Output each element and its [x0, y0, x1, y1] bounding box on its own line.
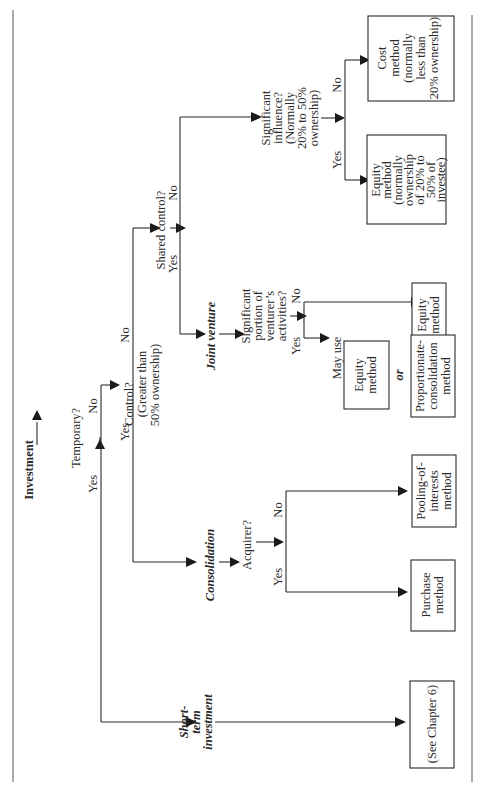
box-prop-line3: method	[439, 357, 453, 395]
edge-temporary-yes: Yes	[86, 475, 100, 493]
box-see-chapter: (See Chapter 6)	[425, 685, 439, 763]
node-portion-line4: activities?	[275, 290, 289, 341]
edge-shared-no: No	[166, 185, 180, 200]
edge-portion-yes: Yes	[289, 337, 303, 355]
edge-control-yes: Yes	[118, 423, 132, 441]
investment-accounting-flowchart: Investment Temporary? Yes No Control? (G…	[0, 0, 486, 788]
box-cost-line2: method	[388, 39, 402, 77]
box-equity-inf-line7: investee)	[434, 157, 448, 202]
box-prop-line2: consolidation	[426, 342, 440, 410]
edge-control-no: No	[118, 327, 132, 342]
node-consolidation: Consolidation	[203, 529, 217, 601]
node-short-term-line3: investment	[201, 694, 215, 750]
box-purchase-line2: method	[432, 576, 446, 614]
node-joint-venture: Joint venture	[204, 301, 218, 371]
edge-portion-no: No	[289, 288, 303, 303]
edge-influence-no: No	[330, 77, 344, 92]
box-cost-line4: less than	[414, 36, 428, 80]
node-acquirer: Acquirer?	[240, 520, 254, 570]
box-equity-jvyes-line1: Equity	[352, 358, 366, 392]
node-investment: Investment	[22, 439, 36, 500]
box-equity-jvno-line2: method	[428, 296, 442, 334]
box-cost-line5: 20% ownership)	[427, 17, 441, 99]
box-equity-jvno-line1: Equity	[415, 298, 429, 332]
box-cost-line1: Cost	[375, 46, 389, 69]
edge-acquirer-yes: Yes	[271, 568, 285, 586]
box-prop-line1: Proportionate-	[413, 340, 427, 412]
node-influence-line5: ownership)	[307, 90, 321, 146]
node-temporary: Temporary?	[69, 407, 83, 468]
box-pooling-line2: interests	[427, 470, 441, 512]
box-pooling-line3: method	[440, 472, 454, 510]
node-control-line1: Control?	[122, 382, 136, 426]
box-pooling-line1: Pooling-of-	[414, 462, 428, 520]
node-control-line3: 50% ownership)	[148, 344, 162, 426]
node-or: or	[392, 369, 406, 380]
edge-acquirer-no: No	[271, 502, 285, 517]
box-equity-jvyes-line2: method	[365, 356, 379, 394]
edge-shared-yes: Yes	[166, 255, 180, 273]
edge-influence-yes: Yes	[330, 151, 344, 169]
edge-temporary-no: No	[86, 398, 100, 413]
node-control-line2: (Greater than	[135, 350, 149, 417]
box-cost-line3: (normally	[401, 33, 415, 83]
node-may-use: May use	[330, 336, 344, 379]
box-purchase-line1: Purchase	[419, 572, 433, 618]
